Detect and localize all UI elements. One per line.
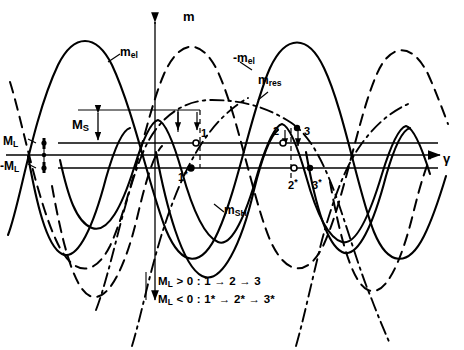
- curve-minus-m-el: [10, 47, 448, 269]
- quantity-label-ML: ML: [3, 135, 18, 149]
- curve-m-sh-deep-3: [306, 128, 410, 253]
- caption-line-1: ML > 0 : 1 → 2 → 3: [158, 276, 261, 289]
- caption-line-2: ML < 0 : 1* → 2* → 3*: [158, 294, 275, 307]
- point-label-3: 3: [304, 126, 310, 137]
- quantity-label-MS: MS: [72, 118, 89, 133]
- curve-label-m-el: mel: [120, 46, 138, 60]
- point-label-2: 2: [273, 126, 279, 137]
- curve-m-el: [8, 41, 446, 259]
- point-label-1-star: 1*: [178, 170, 188, 183]
- point-label-2-star: 2*: [288, 178, 298, 191]
- construction-lines-point1: [178, 110, 200, 168]
- axis-label-gamma: γ: [443, 152, 450, 165]
- curve-m-res-branch: [132, 98, 248, 346]
- point-label-3-star: 3*: [312, 178, 322, 191]
- curve-m-sh-deep-2: [156, 130, 278, 277]
- curve-label-m-res: mres: [258, 74, 282, 88]
- point-label-1: 1: [201, 128, 207, 139]
- axis-label-m: m: [183, 10, 195, 23]
- curve-m-res-branch-right: [296, 104, 408, 346]
- curve-label-minus-m-el: -mel: [233, 52, 255, 66]
- curve-label-m-sh: mSH: [224, 204, 247, 218]
- figure-canvas: m γ mel -mel mres mSH MS ML -ML 1 2 3 1*…: [0, 0, 464, 350]
- quantity-label-minus-ML: -ML: [0, 160, 19, 174]
